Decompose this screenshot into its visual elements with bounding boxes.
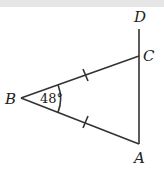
point-label-c: C [143, 47, 155, 65]
segment-ba [21, 98, 139, 144]
segment-bc [21, 56, 139, 98]
point-label-d: D [133, 8, 146, 26]
point-label-b: B [4, 90, 16, 108]
angle-b-label: 48° [40, 91, 63, 106]
triangle-diagram: 48° D C B A [0, 0, 164, 169]
point-label-a: A [132, 149, 145, 167]
